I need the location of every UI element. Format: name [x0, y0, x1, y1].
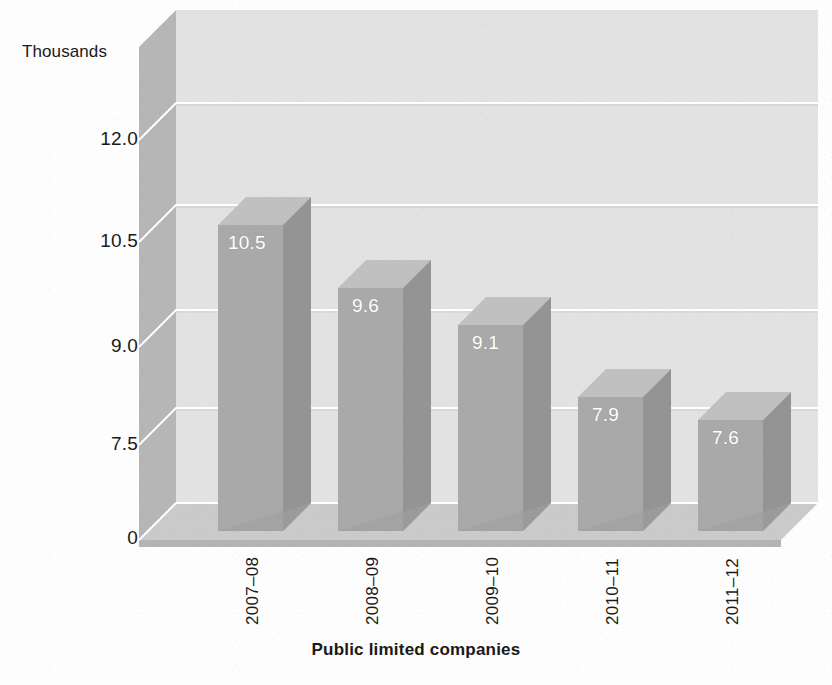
x-tick-2010-11: 2010–11	[603, 558, 623, 625]
y-tick-0: 0	[14, 527, 138, 549]
bar-value-2011-12: 7.6	[712, 427, 739, 449]
x-tick-2011-12: 2011–12	[723, 558, 743, 625]
bar-value-2009-10: 9.1	[472, 332, 499, 354]
bar-side-face	[283, 197, 311, 531]
plot-floor-front-edge	[139, 540, 781, 547]
bar-front-face	[338, 288, 403, 531]
y-tick-10-5: 10.5	[14, 230, 138, 252]
plot-left-wall	[139, 10, 176, 540]
bar-value-2008-09: 9.6	[352, 295, 379, 317]
x-tick-2009-10: 2009–10	[483, 557, 503, 625]
bar-value-2007-08: 10.5	[228, 232, 266, 254]
y-tick-7-5: 7.5	[14, 433, 138, 455]
y-axis-tick-labels: 12.0 10.5 9.0 7.5 0	[0, 0, 138, 685]
bar-side-face	[523, 297, 551, 531]
x-tick-2008-09: 2008–09	[363, 557, 383, 625]
bar-front-face	[218, 225, 283, 531]
bar-front-face	[458, 325, 523, 531]
y-tick-12-0: 12.0	[14, 128, 138, 150]
bar-2010-11[interactable]	[578, 369, 671, 531]
y-tick-9-0: 9.0	[14, 335, 138, 357]
x-tick-2007-08: 2007–08	[243, 557, 263, 625]
bar-value-2010-11: 7.9	[592, 404, 619, 426]
bar-side-face	[403, 260, 431, 531]
x-axis-title: Public limited companies	[0, 640, 832, 660]
chart-container: Thousands 12.0 10.5 9.0 7.5 0 10.5 9.6 9…	[0, 0, 832, 685]
